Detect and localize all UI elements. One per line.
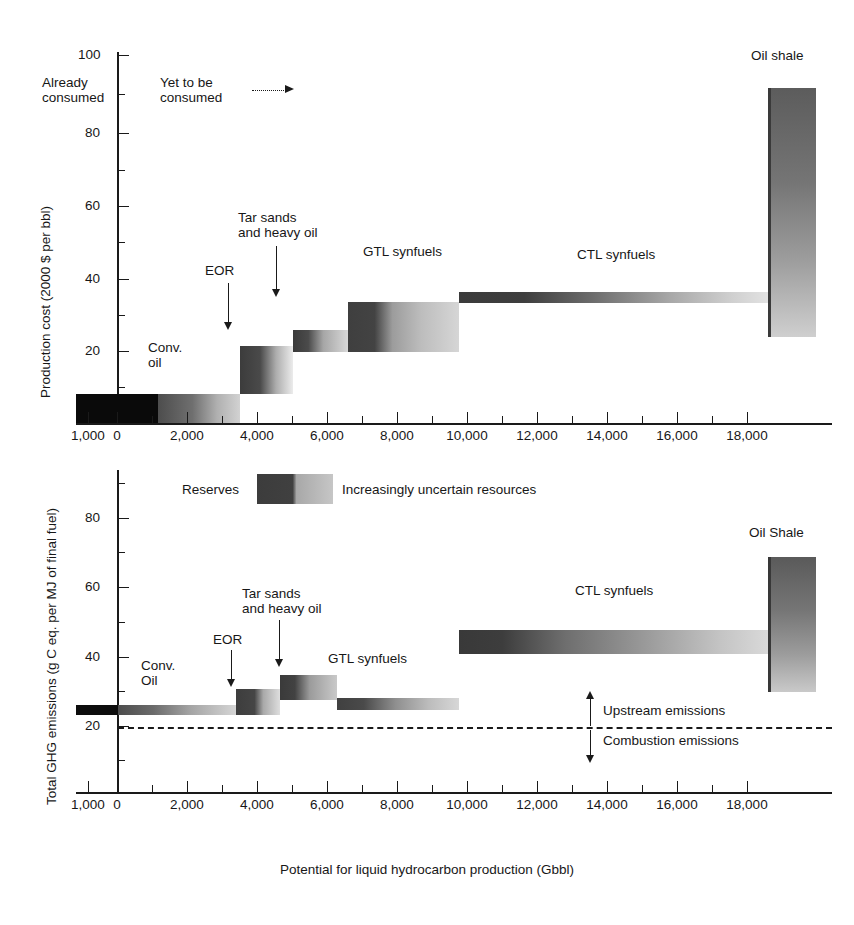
upstream-emissions-arrow-line xyxy=(590,698,591,726)
bottom-chart-xtick--1000 xyxy=(88,781,89,792)
top-chart-xtick-label-0: 0 xyxy=(105,428,129,443)
top-chart-label-yet-to-be-consumed: Yet to be consumed xyxy=(160,75,222,105)
top-chart-label-ctl-synfuels: CTL synfuels xyxy=(577,247,655,262)
combustion-baseline-dashed-line xyxy=(118,727,832,729)
tar-sands-arrow-line-bottom xyxy=(279,620,280,662)
top-chart-xtick-9000 xyxy=(432,416,433,423)
bottom-chart-ytick-50 xyxy=(117,622,125,623)
bottom-chart-xtick-18000 xyxy=(747,781,748,792)
bottom-chart-xtick-label-2000: 2,000 xyxy=(163,797,211,812)
top-chart-ytick-80 xyxy=(117,133,129,134)
bottom-chart-ytick-label-20: 20 xyxy=(85,718,100,733)
eor-arrow-line-bottom xyxy=(231,650,232,682)
bottom-chart-xtick-0 xyxy=(117,781,118,792)
bottom-chart-xtick-6000 xyxy=(327,781,328,792)
top-chart-xtick-label-10000: 10,000 xyxy=(439,428,495,443)
top-chart-xtick-15000 xyxy=(642,416,643,423)
top-chart-xtick-8000 xyxy=(397,412,398,423)
bottom-chart-label-eor: EOR xyxy=(213,632,242,647)
bottom-chart-bar-conv-oil xyxy=(76,705,118,715)
top-chart-ytick-40 xyxy=(117,279,129,280)
top-chart-xtick-6000 xyxy=(327,412,328,423)
top-chart-bar-conv-oil-resource xyxy=(158,394,240,423)
bottom-chart-xtick-2000 xyxy=(187,781,188,792)
bottom-chart-x-axis-line xyxy=(76,792,832,794)
bottom-chart-bar-oil-shale xyxy=(768,557,816,692)
top-chart-ytick-50 xyxy=(117,242,125,243)
bottom-chart-xtick-13000 xyxy=(572,785,573,792)
bottom-chart-y-axis-title: Total GHG emissions (g C eq. per MJ of f… xyxy=(44,508,59,805)
bottom-chart-ytick-80 xyxy=(117,518,129,519)
top-chart-xtick-13000 xyxy=(572,416,573,423)
top-chart-ytick-label-100: 100 xyxy=(78,47,101,62)
bottom-chart-ytick-90 xyxy=(117,483,125,484)
top-chart-xtick-2000 xyxy=(187,412,188,423)
top-chart-label-oil-shale: Oil shale xyxy=(751,48,804,63)
bottom-chart-ytick-label-40: 40 xyxy=(85,649,100,664)
top-chart-ytick-10 xyxy=(117,387,125,388)
top-chart-label-eor: EOR xyxy=(205,263,234,278)
top-chart-xtick-label-14000: 14,000 xyxy=(579,428,635,443)
top-chart-xtick-label-16000: 16,000 xyxy=(649,428,705,443)
combustion-emissions-arrow-head-icon xyxy=(586,755,594,763)
bottom-chart-xtick-label-10000: 10,000 xyxy=(439,797,495,812)
bottom-chart-label-oil-shale: Oil Shale xyxy=(749,525,804,540)
top-chart-xtick-label-6000: 6,000 xyxy=(303,428,351,443)
top-chart-xtick-4000 xyxy=(257,412,258,423)
top-chart-xtick-label-2000: 2,000 xyxy=(163,428,211,443)
bottom-chart-xtick-4000 xyxy=(257,781,258,792)
top-chart-xtick-14000 xyxy=(607,412,608,423)
top-chart-xtick-17000 xyxy=(712,416,713,423)
top-chart-ytick-90 xyxy=(117,94,125,95)
top-chart-ytick-20 xyxy=(117,351,129,352)
bottom-chart-bar-ctl-synfuels xyxy=(459,630,770,654)
top-chart-label-conv-oil: Conv. oil xyxy=(148,340,182,370)
bottom-chart-xtick-11000 xyxy=(502,785,503,792)
top-chart-bar-oil-shale xyxy=(768,88,816,337)
top-chart-xtick-1000 xyxy=(152,416,153,423)
top-chart-bar-tar-sands xyxy=(293,330,348,352)
bottom-chart-label-ctl-synfuels: CTL synfuels xyxy=(575,583,653,598)
top-chart-y-axis-line xyxy=(117,52,119,424)
top-chart-ytick-100 xyxy=(117,55,129,56)
bottom-chart-label-conv-oil: Conv. Oil xyxy=(141,658,175,688)
bottom-chart-label-upstream-emissions: Upstream emissions xyxy=(603,703,725,718)
top-chart-xtick-11000 xyxy=(502,416,503,423)
top-chart-xtick-16000 xyxy=(677,412,678,423)
legend-gradient-swatch xyxy=(257,474,333,504)
tar-sands-arrow-head-icon-top xyxy=(272,289,280,297)
top-chart-xtick-5000 xyxy=(292,416,293,423)
top-chart-label-already-consumed: Already consumed xyxy=(42,75,104,105)
bottom-chart-xtick-8000 xyxy=(397,781,398,792)
top-chart-ytick-60 xyxy=(117,206,129,207)
bottom-chart-xtick-9000 xyxy=(432,785,433,792)
eor-arrow-head-icon-top xyxy=(224,322,232,330)
bottom-chart-xtick-17000 xyxy=(712,785,713,792)
bottom-chart-ytick-label-60: 60 xyxy=(85,579,100,594)
top-chart-xtick-10000 xyxy=(467,412,468,423)
bottom-chart-xtick-label-16000: 16,000 xyxy=(649,797,705,812)
yet-to-be-consumed-arrow-head-icon xyxy=(285,85,294,93)
top-chart-xtick-18000 xyxy=(747,412,748,423)
figure-root: Production cost (2000 $ per bbl) 100 80 … xyxy=(0,0,854,925)
top-chart-xtick-0 xyxy=(117,412,118,423)
bottom-chart-bar-tar-sands xyxy=(280,675,337,700)
bottom-chart-xtick-16000 xyxy=(677,781,678,792)
bottom-chart-xtick-12000 xyxy=(537,781,538,792)
top-chart-xtick-12000 xyxy=(537,412,538,423)
bottom-chart-label-tar-sands: Tar sands and heavy oil xyxy=(242,586,322,616)
bottom-chart-xtick-label-8000: 8,000 xyxy=(373,797,421,812)
figure-x-axis-title: Potential for liquid hydrocarbon product… xyxy=(177,862,677,877)
bottom-chart-xtick-label-14000: 14,000 xyxy=(579,797,635,812)
bottom-chart-label-combustion-emissions: Combustion emissions xyxy=(603,733,739,748)
top-chart-label-gtl-synfuels: GTL synfuels xyxy=(363,244,442,259)
bottom-chart-ytick-label-80: 80 xyxy=(85,510,100,525)
bottom-chart-ytick-40 xyxy=(117,657,129,658)
bottom-chart-xtick-14000 xyxy=(607,781,608,792)
bottom-chart-xtick-label-18000: 18,000 xyxy=(719,797,775,812)
top-chart-bar-gtl-synfuels xyxy=(348,302,459,352)
top-chart-xtick-label-12000: 12,000 xyxy=(509,428,565,443)
bottom-chart-xtick-3000 xyxy=(222,785,223,792)
top-chart-xtick--1000 xyxy=(88,412,89,423)
bottom-chart-xtick-label-6000: 6,000 xyxy=(303,797,351,812)
